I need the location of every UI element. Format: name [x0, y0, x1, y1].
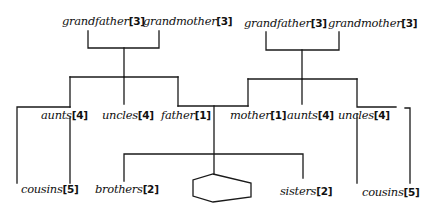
paternal-grandmother-label: grandmother[3]: [143, 16, 232, 28]
label-name: aunts: [41, 108, 72, 122]
label-name: father: [161, 108, 195, 122]
maternal-grandfather-label: grandfather[3]: [244, 18, 327, 30]
label-name: grandmother: [143, 14, 216, 28]
mother-label: mother[1]: [230, 110, 286, 122]
label-name: grandfather: [244, 16, 311, 30]
paternal-grandparents-marriage-line: [88, 31, 159, 48]
maternal-uncles-label: uncles[4]: [338, 110, 390, 122]
label-degree: [4]: [318, 109, 334, 121]
label-name: grandfather: [62, 14, 129, 28]
label-degree: [3]: [311, 17, 327, 29]
paternal-uncles-label: uncles[4]: [102, 110, 154, 122]
label-degree: [4]: [72, 109, 88, 121]
label-degree: [1]: [195, 109, 211, 121]
ego-hexagon-icon: [193, 174, 251, 202]
label-name: grandmother: [328, 16, 401, 30]
maternal-aunts-label: aunts[4]: [287, 110, 334, 122]
label-name: mother: [230, 108, 270, 122]
label-name: cousins: [362, 185, 404, 199]
label-degree: [1]: [270, 109, 286, 121]
label-degree: [3]: [216, 15, 232, 27]
label-degree: [4]: [374, 109, 390, 121]
maternal-grandparents-marriage-line: [266, 32, 339, 50]
label-name: sisters: [280, 184, 316, 198]
kinship-connector-lines: [0, 0, 421, 213]
label-degree: [5]: [63, 183, 79, 195]
sisters-label: sisters[2]: [280, 186, 332, 198]
right-cousins-outer-line: [405, 108, 410, 183]
label-degree: [2]: [143, 183, 159, 195]
paternal-aunts-label: aunts[4]: [41, 110, 88, 122]
label-name: uncles: [102, 108, 138, 122]
maternal-grandmother-label: grandmother[3]: [328, 18, 417, 30]
label-name: brothers: [95, 182, 143, 196]
paternal-cousins-label: cousins[5]: [21, 184, 79, 196]
label-degree: [2]: [316, 185, 332, 197]
paternal-grandfather-label: grandfather[3]: [62, 16, 145, 28]
maternal-cousins-label: cousins[5]: [362, 187, 420, 199]
label-degree: [5]: [404, 186, 420, 198]
father-label: father[1]: [161, 110, 211, 122]
label-name: cousins: [21, 182, 63, 196]
family-tree-diagram: grandfather[3] grandmother[3] grandfathe…: [0, 0, 421, 213]
label-name: aunts: [287, 108, 318, 122]
uncles-right-drop: [357, 79, 396, 107]
brothers-label: brothers[2]: [95, 184, 159, 196]
label-degree: [4]: [138, 109, 154, 121]
label-name: uncles: [338, 108, 374, 122]
label-degree: [3]: [401, 17, 417, 29]
